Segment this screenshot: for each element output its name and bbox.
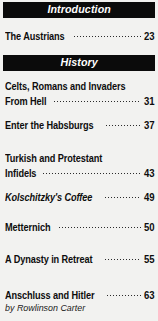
section-header-label: History <box>60 57 98 69</box>
toc-entry-line: Enter the Habsburgs 37 <box>5 117 155 132</box>
toc-entry[interactable]: Metternich 50 <box>5 219 155 234</box>
toc-entry-title-continued: From Hell <box>5 95 46 108</box>
toc-entry-title: Enter the Habsburgs <box>5 119 93 132</box>
toc-entry-page-number: 50 <box>144 221 155 234</box>
toc-entry[interactable]: Kolschitzky's Coffee 49 <box>5 189 155 204</box>
toc-entry[interactable]: Celts, Romans and Invaders From Hell 31 <box>5 80 155 108</box>
toc-entry-title: The Austrians <box>5 30 65 43</box>
dot-leader <box>54 93 141 105</box>
toc-entry-line: From Hell 31 <box>5 93 155 108</box>
toc-entry-title: Turkish and Protestant <box>5 152 102 165</box>
dot-leader <box>74 28 141 40</box>
toc-entry-page-number: 31 <box>144 95 155 108</box>
toc-entry-page-number: 23 <box>144 30 155 43</box>
section-header-label: Introduction <box>47 4 111 16</box>
section-header-introduction: Introduction <box>3 2 155 18</box>
toc-entry-page-number: 49 <box>144 191 155 204</box>
dot-leader <box>59 219 142 231</box>
toc-entry-line: The Austrians 23 <box>5 28 155 43</box>
toc-entry-title: A Dynasty in Retreat <box>5 253 93 266</box>
toc-entry-line: Anschluss and Hitler 63 <box>5 287 155 302</box>
toc-entry-page-number: 37 <box>144 119 155 132</box>
toc-entry-title: Celts, Romans and Invaders <box>5 80 125 93</box>
dot-leader <box>43 165 142 177</box>
toc-entry-line: A Dynasty in Retreat 55 <box>5 251 155 266</box>
toc-entry-page-number: 63 <box>144 289 155 302</box>
toc-entry-byline: by Rowlinson Carter <box>5 302 148 314</box>
toc-entry-title: Metternich <box>5 221 50 234</box>
toc-entry-line: Celts, Romans and Invaders <box>5 80 155 93</box>
toc-page: Introduction The Austrians 23 History Ce… <box>0 0 158 321</box>
dot-leader <box>105 189 141 201</box>
toc-entry-line: Infidels 43 <box>5 165 155 180</box>
toc-entry[interactable]: Turkish and Protestant Infidels 43 <box>5 152 155 180</box>
dot-leader <box>107 287 141 299</box>
dot-leader <box>106 117 141 129</box>
toc-entry-title-continued: Infidels <box>5 167 36 180</box>
toc-entry-line: Metternich 50 <box>5 219 155 234</box>
toc-entry[interactable]: Anschluss and Hitler 63 by Rowlinson Car… <box>5 287 155 314</box>
toc-entry[interactable]: The Austrians 23 <box>5 28 155 43</box>
toc-entry-page-number: 55 <box>144 253 155 266</box>
toc-entry[interactable]: A Dynasty in Retreat 55 <box>5 251 155 266</box>
toc-entry-line: Turkish and Protestant <box>5 152 155 165</box>
toc-entry-page-number: 43 <box>144 167 155 180</box>
dot-leader <box>105 251 141 263</box>
section-header-history: History <box>3 55 155 71</box>
toc-entry[interactable]: Enter the Habsburgs 37 <box>5 117 155 132</box>
toc-entry-title: Anschluss and Hitler <box>5 289 94 302</box>
toc-entry-title: Kolschitzky's Coffee <box>5 191 92 204</box>
toc-entry-line: Kolschitzky's Coffee 49 <box>5 189 155 204</box>
